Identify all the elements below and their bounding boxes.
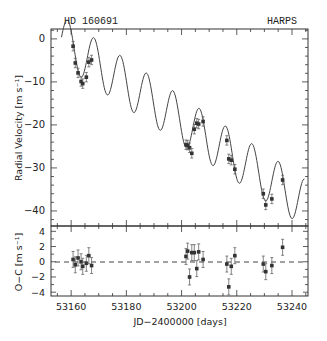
residual-point <box>186 249 190 253</box>
rv-point <box>71 44 75 48</box>
residual-point <box>71 258 75 262</box>
y-tick-label: 0 <box>39 33 45 44</box>
residual-point <box>197 250 201 254</box>
y-tick-label: −30 <box>24 162 45 173</box>
residual-point <box>81 265 85 269</box>
x-tick-label: 53200 <box>166 301 196 312</box>
rv-point <box>73 61 77 65</box>
residuals-panel-frame <box>51 226 308 296</box>
residual-point <box>229 265 233 269</box>
rv-point <box>81 82 85 86</box>
rv-point <box>229 158 233 162</box>
residual-point <box>188 275 192 279</box>
residual-point <box>281 246 285 250</box>
instrument-label: HARPS <box>267 16 297 27</box>
y-tick-label: −4 <box>31 287 45 298</box>
y-tick-label: 4 <box>39 226 45 237</box>
residual-point <box>87 254 91 258</box>
rv-point <box>264 203 268 207</box>
star-name-label: HD 160691 <box>64 16 118 27</box>
chart-canvas: HD 160691 HARPS 0−10−20−30−40 Radial Vel… <box>0 0 327 341</box>
rv-point <box>225 139 229 143</box>
x-tick-label: 53220 <box>222 301 252 312</box>
residuals-panel: 420−2−4 5316053180532005322053240 O−C [m… <box>13 226 308 327</box>
residual-point <box>233 254 237 258</box>
residual-point <box>192 251 196 255</box>
residual-point <box>73 263 77 267</box>
keplerian-fit-curve <box>61 20 304 219</box>
rv-panel-ticks <box>51 29 308 226</box>
y-tick-label: −20 <box>24 119 45 130</box>
x-tick-label: 53160 <box>56 301 86 312</box>
rv-point <box>76 71 80 75</box>
rv-point <box>281 178 285 182</box>
residual-data-points <box>71 239 284 295</box>
rv-chart: HD 160691 HARPS 0−10−20−30−40 Radial Vel… <box>0 0 327 341</box>
rv-point <box>85 75 89 79</box>
residuals-panel-ticks <box>51 226 308 296</box>
rv-y-tick-labels: 0−10−20−30−40 <box>24 33 45 216</box>
rv-point <box>270 197 274 201</box>
rv-y-axis-label: Radial Velocity [m s⁻¹] <box>13 75 24 181</box>
y-tick-label: −10 <box>24 76 45 87</box>
rv-data-points <box>71 41 284 209</box>
residual-point <box>264 270 268 274</box>
y-tick-label: 0 <box>39 256 45 267</box>
rv-panel: 0−10−20−30−40 Radial Velocity [m s⁻¹] <box>13 20 308 226</box>
residual-point <box>227 285 231 289</box>
rv-point <box>190 152 194 156</box>
residual-point <box>201 258 205 262</box>
x-tick-labels: 5316053180532005322053240 <box>56 301 307 312</box>
residuals-y-tick-labels: 420−2−4 <box>31 226 45 298</box>
y-tick-label: −2 <box>31 271 45 282</box>
y-tick-label: 2 <box>39 241 45 252</box>
rv-point <box>201 120 205 124</box>
x-tick-label: 53180 <box>111 301 141 312</box>
residual-point <box>195 267 199 271</box>
rv-point <box>233 167 237 171</box>
residual-point <box>270 264 274 268</box>
rv-point <box>197 122 201 126</box>
rv-panel-frame <box>51 29 308 226</box>
rv-point <box>90 58 94 62</box>
residual-point <box>225 262 229 266</box>
residuals-y-axis-label: O−C [m s⁻¹] <box>13 233 24 292</box>
x-axis-label: JD−2400000 [days] <box>132 316 226 327</box>
residual-point <box>76 256 80 260</box>
y-tick-label: −40 <box>24 205 45 216</box>
rv-point <box>261 192 265 196</box>
residual-point <box>90 264 94 268</box>
x-tick-label: 53240 <box>277 301 307 312</box>
